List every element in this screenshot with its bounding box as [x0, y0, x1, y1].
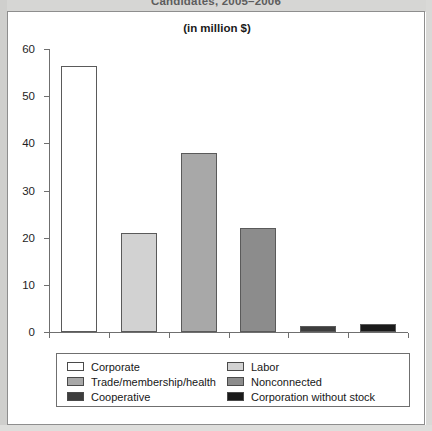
legend-grid: CorporateLaborTrade/membership/healthNon… [67, 359, 409, 404]
x-axis-tick [288, 333, 289, 338]
x-axis-tick [109, 333, 110, 338]
legend-label: Nonconnected [251, 376, 322, 388]
y-axis-tick-label: 40 [22, 137, 35, 149]
bar [121, 233, 157, 332]
legend-item: Corporate [67, 359, 227, 374]
x-axis-tick [49, 333, 50, 338]
bar [61, 66, 97, 332]
y-axis-tick-label-anchor: 0 [44, 332, 45, 333]
y-axis-tick-label-anchor: 40 [44, 143, 45, 144]
bar [181, 153, 217, 332]
legend-item: Trade/membership/health [67, 374, 227, 389]
legend-item: Cooperative [67, 389, 227, 404]
bar [300, 326, 336, 332]
legend-label: Cooperative [91, 391, 150, 403]
scan-bottom-gutter [0, 425, 432, 431]
legend-swatch [67, 362, 84, 371]
x-axis-tick [348, 333, 349, 338]
legend-swatch [227, 392, 244, 401]
chart-subtitle: (in million $) [8, 22, 426, 34]
y-axis-tick-label: 0 [29, 326, 35, 338]
legend-item: Nonconnected [227, 374, 421, 389]
legend-swatch [67, 392, 84, 401]
legend-label: Trade/membership/health [91, 376, 216, 388]
scanned-page: Candidates, 2005–2006 (in million $) 010… [0, 0, 432, 431]
bar [240, 228, 276, 332]
x-axis-tick [229, 333, 230, 338]
legend-label: Corporation without stock [251, 391, 375, 403]
y-axis-tick-label: 50 [22, 90, 35, 102]
legend-item: Labor [227, 359, 421, 374]
cropped-document-heading: Candidates, 2005–2006 [0, 0, 432, 7]
scan-left-gutter [0, 0, 7, 431]
y-axis-tick-label: 30 [22, 185, 35, 197]
y-axis-tick-label: 60 [22, 43, 35, 55]
y-axis-line [49, 49, 50, 333]
x-axis-tick [408, 333, 409, 338]
legend-swatch [67, 377, 84, 386]
legend-swatch [227, 362, 244, 371]
y-axis-tick-label-anchor: 60 [44, 49, 45, 50]
chart-legend: CorporateLaborTrade/membership/healthNon… [56, 353, 410, 407]
legend-item: Corporation without stock [227, 389, 421, 404]
bar [360, 324, 396, 332]
y-axis-tick-label-anchor: 30 [44, 191, 45, 192]
legend-swatch [227, 377, 244, 386]
plot-area: 0102030405060 [49, 49, 408, 333]
y-axis-tick-label-anchor: 20 [44, 238, 45, 239]
y-axis-tick-label-anchor: 50 [44, 96, 45, 97]
legend-label: Labor [251, 361, 279, 373]
legend-label: Corporate [91, 361, 140, 373]
x-axis-tick [169, 333, 170, 338]
chart-panel: (in million $) 0102030405060 CorporateLa… [7, 11, 425, 425]
y-axis-tick-label: 20 [22, 232, 35, 244]
scan-right-gutter [426, 0, 432, 431]
y-axis-tick-label-anchor: 10 [44, 285, 45, 286]
y-axis-tick-label: 10 [22, 279, 35, 291]
